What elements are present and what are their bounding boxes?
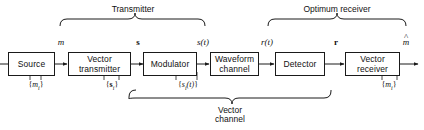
block-vector-transmitter-label-line1: Vector	[87, 54, 112, 64]
signal-label-r-of-t: r(t)	[253, 38, 281, 47]
set-label-mi-close: }	[40, 80, 44, 89]
signal-label-m: m	[50, 38, 72, 47]
group-label-transmitter: Transmitter	[78, 4, 188, 14]
brace-optimum-receiver	[268, 13, 406, 26]
brace-transmitter	[60, 13, 205, 26]
block-waveform-channel-label-line2: channel	[219, 64, 249, 74]
block-detector-label: Detector	[284, 59, 317, 69]
set-label-si-of-t-close: }	[194, 80, 198, 89]
block-modulator-label: Modulator	[151, 59, 190, 69]
block-modulator[interactable]: Modulator	[143, 52, 197, 76]
brace-vector-channel	[129, 90, 331, 104]
hat-accent-icon: ^	[404, 35, 408, 39]
signal-label-s: s	[127, 38, 149, 47]
signal-label-m-hat: ^m	[395, 38, 417, 47]
block-diagram-figure: Transmitter Optimum receiver Vector chan…	[0, 0, 424, 130]
block-waveform-channel[interactable]: Waveform channel	[210, 52, 259, 76]
set-label-si: {si}	[94, 80, 130, 93]
set-label-si-of-t: {si(t)}	[168, 80, 208, 93]
block-waveform-channel-label-line1: Waveform	[215, 54, 254, 64]
m-hat-glyph: ^m	[403, 38, 410, 47]
block-vector-transmitter-label-line2: transmitter	[79, 64, 120, 74]
signal-label-r: r	[325, 38, 347, 47]
block-vector-receiver-label-line2: receiver	[357, 64, 388, 74]
set-label-si-close: }	[114, 80, 118, 89]
block-source-label: Source	[18, 59, 46, 69]
set-label-mi-output: {mi}	[371, 80, 407, 93]
block-vector-receiver-label-line1: Vector	[360, 54, 385, 64]
set-label-mi: {mi}	[18, 80, 54, 93]
block-vector-transmitter[interactable]: Vector transmitter	[68, 52, 131, 76]
signal-label-s-of-t: s(t)	[189, 38, 217, 47]
block-source[interactable]: Source	[8, 52, 55, 76]
group-label-optimum-receiver: Optimum receiver	[282, 4, 392, 14]
group-label-vector-channel-line2: channel	[206, 114, 254, 124]
block-vector-receiver[interactable]: Vector receiver	[345, 52, 400, 76]
set-label-mi-output-close: }	[393, 80, 397, 89]
block-detector[interactable]: Detector	[275, 52, 325, 76]
